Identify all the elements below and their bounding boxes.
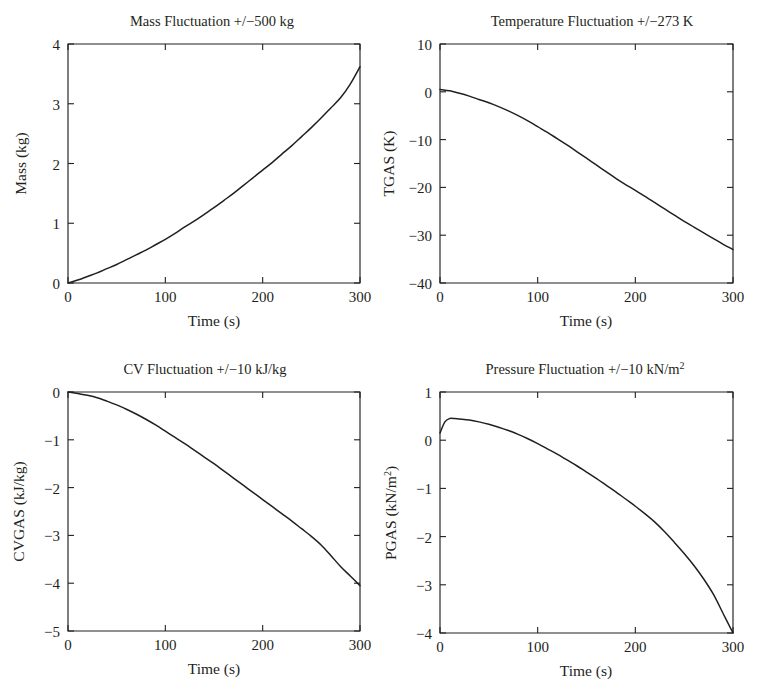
panel-temperature-ytick-4: 0 bbox=[425, 85, 433, 101]
panel-mass-data-curve bbox=[68, 67, 360, 283]
panel-pressure-ylabel: PGAS (kN/m2) bbox=[382, 466, 400, 560]
panel-pressure-xtick-3: 300 bbox=[722, 639, 745, 655]
panel-pressure-title-superscript: 2 bbox=[679, 360, 684, 371]
panel-mass-ytick-3: 3 bbox=[53, 97, 61, 113]
panel-pressure-xtick-1: 100 bbox=[526, 639, 549, 655]
panel-mass-ylabel: Mass (kg) bbox=[12, 132, 30, 194]
panel-temperature-xtick-0: 0 bbox=[436, 289, 444, 305]
panel-mass-svg: Mass Fluctuation +/−500 kg 0 1 2 3 4 bbox=[0, 0, 379, 348]
panel-pressure-ylabel-main: PGAS (kN/m bbox=[382, 476, 400, 560]
panel-cv-xlabel: Time (s) bbox=[188, 660, 240, 678]
panel-cv-y-ticks bbox=[68, 392, 360, 631]
panel-temperature-ytick-0: −40 bbox=[409, 276, 432, 292]
panel-temperature-ytick-3: −10 bbox=[409, 133, 432, 149]
panel-pressure-xtick-2: 200 bbox=[624, 639, 647, 655]
figure-canvas: Mass Fluctuation +/−500 kg 0 1 2 3 4 bbox=[0, 0, 759, 696]
panel-temperature-x-ticks bbox=[440, 44, 733, 283]
panel-pressure: Pressure Fluctuation +/−10 kN/m2 −4 −3 −… bbox=[380, 348, 759, 696]
panel-pressure-title: Pressure Fluctuation +/−10 kN/m2 bbox=[486, 360, 685, 377]
panel-pressure-axes-box bbox=[440, 392, 733, 633]
panel-temperature-xtick-3: 300 bbox=[722, 289, 745, 305]
panel-mass-xtick-1: 100 bbox=[154, 289, 177, 305]
panel-cv-ylabel: CVGAS (kJ/kg) bbox=[10, 461, 28, 561]
panel-cv-axes-box bbox=[68, 392, 360, 631]
panel-cv-xtick-3: 300 bbox=[349, 637, 372, 653]
panel-pressure-ytick-3: −1 bbox=[416, 481, 432, 497]
panel-mass-xlabel: Time (s) bbox=[188, 312, 240, 330]
panel-pressure-ylabel-tail: ) bbox=[382, 466, 400, 471]
panel-mass-axes-box bbox=[68, 44, 360, 283]
panel-temperature-xtick-1: 100 bbox=[526, 289, 549, 305]
panel-cv-ytick-3: −2 bbox=[44, 481, 60, 497]
panel-pressure-xlabel: Time (s) bbox=[560, 662, 612, 680]
panel-mass-y-ticks bbox=[68, 44, 360, 283]
panel-pressure-xtick-0: 0 bbox=[436, 639, 444, 655]
panel-cv-ytick-5: 0 bbox=[53, 385, 61, 401]
panel-cv-ytick-2: −3 bbox=[44, 528, 60, 544]
panel-cv-title: CV Fluctuation +/−10 kJ/kg bbox=[123, 361, 286, 377]
panel-mass-ytick-2: 2 bbox=[53, 157, 61, 173]
panel-pressure-ytick-2: −2 bbox=[416, 530, 432, 546]
panel-mass-ytick-4: 4 bbox=[53, 37, 61, 53]
panel-temperature-ytick-2: −20 bbox=[409, 180, 432, 196]
panel-temperature-ylabel: TGAS (K) bbox=[380, 131, 398, 197]
panel-pressure-y-ticks bbox=[440, 392, 733, 633]
panel-pressure-x-ticks bbox=[440, 392, 733, 633]
panel-temperature-data-curve bbox=[440, 89, 733, 249]
panel-temperature: Temperature Fluctuation +/−273 K −40 −30… bbox=[380, 0, 759, 348]
panel-cv: CV Fluctuation +/−10 kJ/kg −5 −4 −3 −2 bbox=[0, 348, 379, 696]
panel-mass-xtick-2: 200 bbox=[251, 289, 274, 305]
panel-cv-xtick-2: 200 bbox=[251, 637, 274, 653]
panel-cv-ytick-1: −4 bbox=[44, 576, 60, 592]
panel-mass-ytick-1: 1 bbox=[53, 216, 61, 232]
panel-mass-x-ticks bbox=[68, 44, 360, 283]
panel-temperature-svg: Temperature Fluctuation +/−273 K −40 −30… bbox=[380, 0, 759, 348]
panel-cv-svg: CV Fluctuation +/−10 kJ/kg −5 −4 −3 −2 bbox=[0, 348, 379, 696]
panel-mass-title: Mass Fluctuation +/−500 kg bbox=[130, 13, 294, 29]
panel-pressure-title-main: Pressure Fluctuation +/−10 kN/m bbox=[486, 361, 681, 377]
panel-cv-x-ticks bbox=[68, 392, 360, 631]
panel-temperature-y-ticks bbox=[440, 44, 733, 283]
panel-temperature-ytick-1: −30 bbox=[409, 228, 432, 244]
panel-pressure-svg: Pressure Fluctuation +/−10 kN/m2 −4 −3 −… bbox=[380, 348, 759, 696]
panel-pressure-ytick-0: −4 bbox=[416, 626, 432, 642]
panel-mass: Mass Fluctuation +/−500 kg 0 1 2 3 4 bbox=[0, 0, 379, 348]
panel-temperature-title: Temperature Fluctuation +/−273 K bbox=[491, 13, 694, 29]
panel-mass-xtick-0: 0 bbox=[64, 289, 72, 305]
panel-temperature-axes-box bbox=[440, 44, 733, 283]
panel-pressure-ytick-5: 1 bbox=[425, 385, 433, 401]
panel-cv-ytick-0: −5 bbox=[44, 624, 60, 640]
panel-cv-ytick-4: −1 bbox=[44, 433, 60, 449]
panel-mass-xtick-3: 300 bbox=[349, 289, 372, 305]
panel-temperature-xlabel: Time (s) bbox=[560, 312, 612, 330]
panel-pressure-data-curve bbox=[440, 418, 733, 633]
panel-pressure-ytick-4: 0 bbox=[425, 433, 433, 449]
panel-cv-xtick-0: 0 bbox=[64, 637, 72, 653]
panel-mass-ytick-0: 0 bbox=[53, 276, 61, 292]
panel-cv-xtick-1: 100 bbox=[154, 637, 177, 653]
panel-temperature-xtick-2: 200 bbox=[624, 289, 647, 305]
panel-cv-data-curve bbox=[68, 392, 360, 586]
panel-temperature-ytick-5: 10 bbox=[417, 37, 432, 53]
panel-pressure-ytick-1: −3 bbox=[416, 578, 432, 594]
